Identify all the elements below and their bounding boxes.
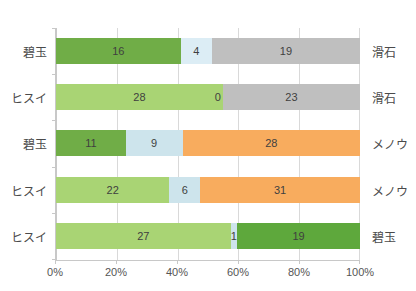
plot-area: 碧玉 16 4 19 滑石 ヒスイ 28 0 (55, 28, 360, 260)
bar-segment-menou[interactable]: 31 (200, 177, 360, 203)
x-axis-tick (116, 260, 117, 264)
bar-row[interactable]: ヒスイ 28 0 23 滑石 (56, 84, 360, 110)
row-left-label: ヒスイ (11, 182, 47, 199)
row-left-label: ヒスイ (11, 228, 47, 245)
bar-segment-neutral[interactable]: 9 (126, 130, 183, 156)
bar-segment-value: 6 (182, 185, 188, 196)
bar-segment-value: 0 (215, 92, 221, 103)
x-axis-tick-label: 40% (166, 266, 188, 278)
row-right-label: 滑石 (372, 89, 396, 106)
bar-segment-value: 19 (280, 46, 292, 57)
row-right-label: メノウ (372, 135, 408, 152)
bar-segment-neutral[interactable]: 6 (169, 177, 200, 203)
bar-segment-value: 9 (151, 138, 157, 149)
bar-segment-value: 19 (292, 231, 304, 242)
bar-segment-heki-gyoku[interactable]: 11 (56, 130, 126, 156)
bar-segment-value: 28 (133, 92, 145, 103)
x-axis-tick (177, 260, 178, 264)
x-axis-tick-label: 20% (105, 266, 127, 278)
bar-row[interactable]: ヒスイ 27 1 19 碧玉 (56, 223, 360, 249)
bar-segment-kasseki[interactable]: 23 (223, 84, 360, 110)
x-axis-line (55, 260, 360, 261)
row-left-label: ヒスイ (11, 89, 47, 106)
bar-segment-value: 16 (112, 46, 124, 57)
bar-segment-neutral[interactable]: 4 (181, 38, 212, 64)
bar-segment-value: 1 (231, 231, 237, 242)
row-right-label: 滑石 (372, 43, 396, 60)
x-axis-tick-label: 100% (346, 266, 374, 278)
x-axis-tick (299, 260, 300, 264)
x-axis-tick (55, 260, 56, 264)
bar-segment-heki-gyoku[interactable]: 16 (56, 38, 181, 64)
bar-row[interactable]: ヒスイ 22 6 31 メノウ (56, 177, 360, 203)
bar-rows: 碧玉 16 4 19 滑石 ヒスイ 28 0 (56, 28, 360, 260)
bar-segment-hisui[interactable]: 22 (56, 177, 169, 203)
row-right-label: メノウ (372, 182, 408, 199)
bar-segment-value: 31 (274, 185, 286, 196)
bar-segment-hisui[interactable]: 27 (56, 223, 231, 249)
row-left-label: 碧玉 (23, 43, 47, 60)
x-axis-tick-label: 80% (288, 266, 310, 278)
x-axis-tick-label: 0% (47, 266, 63, 278)
x-axis-tick (238, 260, 239, 264)
x-axis-tick (359, 260, 360, 264)
bar-segment-kasseki[interactable]: 19 (212, 38, 360, 64)
bar-segment-heki-gyoku[interactable]: 19 (237, 223, 360, 249)
row-left-label: 碧玉 (23, 135, 47, 152)
bar-segment-value: 27 (137, 231, 149, 242)
bar-segment-value: 28 (265, 138, 277, 149)
bar-segment-value: 4 (193, 46, 199, 57)
x-axis-tick-labels: 0% 20% 40% 60% 80% 100% (55, 266, 360, 286)
bar-segment-value: 22 (107, 185, 119, 196)
stacked-bar-chart: 碧玉 16 4 19 滑石 ヒスイ 28 0 (0, 0, 416, 291)
bar-row[interactable]: 碧玉 16 4 19 滑石 (56, 38, 360, 64)
bar-segment-value: 23 (285, 92, 297, 103)
bar-segment-menou[interactable]: 28 (183, 130, 360, 156)
bar-segment-value: 11 (85, 138, 96, 149)
x-axis-tick-label: 60% (227, 266, 249, 278)
row-right-label: 碧玉 (372, 228, 396, 245)
bar-segment-hisui[interactable]: 28 (56, 84, 223, 110)
bar-row[interactable]: 碧玉 11 9 28 メノウ (56, 130, 360, 156)
